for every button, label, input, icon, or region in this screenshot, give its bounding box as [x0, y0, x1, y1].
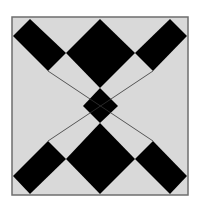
quilt-block-diagram [0, 0, 198, 205]
